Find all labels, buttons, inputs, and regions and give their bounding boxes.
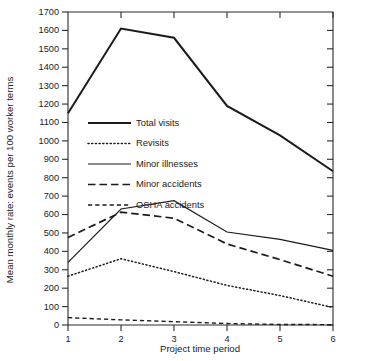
- chart-legend: Total visitsRevisitsMinor illnessesMinor…: [88, 117, 205, 210]
- y-tick-label-1200: 1200: [39, 99, 59, 109]
- y-tick-label-1500: 1500: [39, 44, 59, 54]
- line-chart: 0100200300400500600700800900100011001200…: [0, 0, 369, 361]
- data-series-group: [68, 29, 333, 325]
- legend-label-total-visits: Total visits: [136, 117, 180, 128]
- x-axis-ticks: [68, 12, 333, 331]
- y-axis-title: Mean monthly rate: events per 100 worker…: [4, 77, 15, 284]
- series-line-osha-accidents: [68, 318, 333, 325]
- y-tick-label-800: 800: [44, 173, 59, 183]
- y-tick-label-400: 400: [44, 246, 59, 256]
- legend-label-osha-accidents: OSHA accidents: [136, 199, 205, 210]
- y-tick-label-1000: 1000: [39, 136, 59, 146]
- y-tick-label-200: 200: [44, 283, 59, 293]
- y-axis-ticks: [62, 12, 68, 325]
- y-tick-label-100: 100: [44, 302, 59, 312]
- x-axis-title: Project time period: [160, 343, 240, 354]
- chart-figure: 0100200300400500600700800900100011001200…: [0, 0, 369, 361]
- y-tick-label-500: 500: [44, 228, 59, 238]
- y-tick-label-1300: 1300: [39, 81, 59, 91]
- x-tick-label-1: 1: [65, 334, 70, 344]
- y-tick-label-1600: 1600: [39, 25, 59, 35]
- y-axis-tick-labels: 0100200300400500600700800900100011001200…: [39, 7, 59, 330]
- y-tick-label-1700: 1700: [39, 7, 59, 17]
- series-line-revisits: [68, 259, 333, 308]
- x-tick-label-5: 5: [277, 334, 282, 344]
- legend-label-revisits: Revisits: [136, 137, 169, 148]
- y-tick-label-900: 900: [44, 154, 59, 164]
- y-tick-label-300: 300: [44, 265, 59, 275]
- y-tick-label-1100: 1100: [39, 117, 59, 127]
- y-tick-label-700: 700: [44, 191, 59, 201]
- legend-label-minor-illnesses: Minor illnesses: [136, 158, 198, 169]
- x-tick-label-6: 6: [330, 334, 335, 344]
- y-tick-label-1400: 1400: [39, 62, 59, 72]
- y-tick-label-0: 0: [54, 320, 59, 330]
- legend-label-minor-accidents: Minor accidents: [136, 178, 202, 189]
- y-axis-ticks-right: [327, 30, 333, 325]
- x-tick-label-2: 2: [118, 334, 123, 344]
- series-line-total-visits: [68, 29, 333, 172]
- y-tick-label-600: 600: [44, 209, 59, 219]
